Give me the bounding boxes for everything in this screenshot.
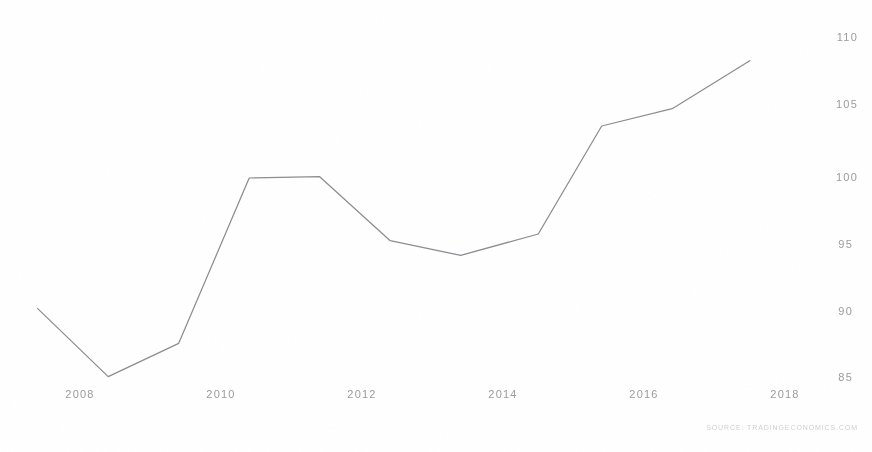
- source-watermark: SOURCE: TRADINGECONOMICS.COM: [706, 424, 858, 431]
- data-series-line: [38, 61, 750, 377]
- y-axis-tick-105: 105: [836, 98, 858, 110]
- x-axis-tick-2014: 2014: [475, 388, 531, 400]
- y-axis-tick-90: 90: [838, 305, 853, 317]
- line-plot: [0, 0, 872, 452]
- chart-container: 110 105 100 95 90 85 2008 2010 2012 2014…: [0, 0, 872, 452]
- y-axis-tick-110: 110: [837, 31, 858, 43]
- x-axis-tick-2012: 2012: [334, 388, 390, 400]
- y-axis-tick-100: 100: [836, 171, 858, 183]
- x-axis-tick-2010: 2010: [193, 388, 249, 400]
- x-axis-tick-2018: 2018: [757, 388, 813, 400]
- x-axis-tick-2008: 2008: [52, 388, 108, 400]
- x-axis-tick-2016: 2016: [616, 388, 672, 400]
- y-axis-tick-85: 85: [838, 371, 853, 383]
- y-axis-tick-95: 95: [838, 238, 853, 250]
